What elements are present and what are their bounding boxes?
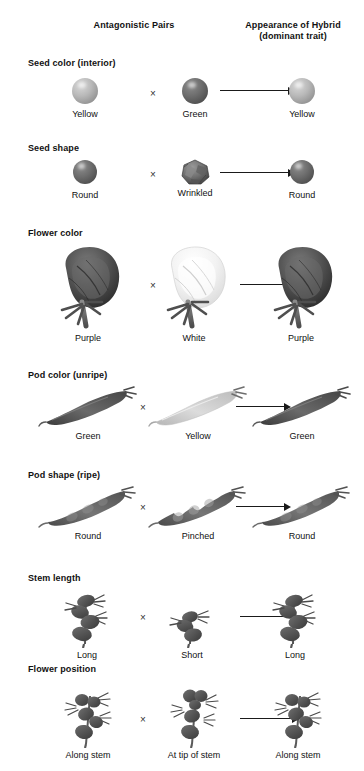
caption-pod-shape-parent1: Round [38, 531, 138, 542]
plant-long-stem-hybrid-icon [258, 592, 332, 648]
trait-cell-seed-color-hybrid: Yellow [262, 78, 342, 120]
pod-round-icon [38, 486, 138, 528]
flower-purple-icon [42, 240, 134, 332]
seed-round-hybrid-icon [262, 160, 342, 184]
caption-stem-length-parent2: Short [155, 650, 229, 661]
trait-cell-seed-shape-parent1: Round [45, 160, 125, 201]
column-header-antagonistic-pairs: Antagonistic Pairs [54, 20, 214, 31]
caption-flower-position-parent2: At tip of stem [152, 750, 236, 761]
trait-cell-seed-color-parent2: Green [155, 78, 235, 120]
caption-flower-color-parent2: White [148, 333, 240, 344]
trait-cell-pod-shape-hybrid: Round [252, 486, 352, 542]
flower-purple-hybrid-icon [255, 240, 347, 332]
seed-round-icon [45, 160, 125, 184]
caption-flower-color-hybrid: Purple [255, 333, 347, 344]
trait-cell-pod-color-parent2: Yellow [148, 386, 248, 442]
column-header-hybrid-line2: (dominant trait) [228, 31, 358, 42]
trait-heading-flower-color: Flower color [28, 228, 83, 238]
trait-heading-stem-length: Stem length [28, 573, 81, 583]
trait-cell-flower-color-hybrid: Purple [255, 240, 347, 344]
pod-round-hybrid-icon [252, 486, 352, 528]
trait-heading-pod-shape: Pod shape (ripe) [28, 470, 100, 480]
cross-symbol-pod-color: × [140, 402, 146, 413]
caption-flower-position-parent1: Along stem [46, 750, 130, 761]
cross-symbol-flower-position: × [140, 714, 146, 725]
caption-seed-color-hybrid: Yellow [262, 109, 342, 120]
trait-cell-pod-color-hybrid: Green [252, 386, 352, 442]
caption-pod-color-parent2: Yellow [148, 431, 248, 442]
caption-pod-shape-parent2: Pinched [148, 531, 248, 542]
trait-cell-flower-position-parent1: Along stem [46, 690, 130, 761]
caption-seed-shape-hybrid: Round [262, 190, 342, 201]
seed-sphere-yellow-icon [45, 78, 125, 104]
trait-heading-flower-position: Flower position [28, 664, 96, 674]
figure-canvas: Antagonistic Pairs Appearance of Hybrid … [0, 0, 364, 771]
trait-cell-flower-position-hybrid: Along stem [256, 690, 340, 761]
pod-pinched-icon [148, 486, 248, 528]
trait-cell-seed-shape-parent2: Wrinkled [155, 158, 235, 199]
trait-heading-seed-shape: Seed shape [28, 143, 79, 153]
flower-white-icon [148, 240, 240, 332]
plant-flowers-along-stem-icon [46, 690, 130, 748]
plant-flowers-at-tip-icon [152, 688, 236, 748]
trait-cell-pod-shape-parent1: Round [38, 486, 138, 542]
trait-cell-seed-color-parent1: Yellow [45, 78, 125, 120]
caption-seed-shape-parent2: Wrinkled [155, 188, 235, 199]
trait-cell-seed-shape-hybrid: Round [262, 160, 342, 201]
pod-yellow-icon [148, 386, 248, 428]
caption-seed-shape-parent1: Round [45, 190, 125, 201]
trait-cell-stem-length-parent1: Long [50, 592, 124, 661]
caption-stem-length-hybrid: Long [258, 650, 332, 661]
trait-cell-flower-position-parent2: At tip of stem [152, 688, 236, 761]
caption-pod-shape-hybrid: Round [252, 531, 352, 542]
trait-heading-pod-color: Pod color (unripe) [28, 370, 107, 380]
trait-cell-flower-color-parent2: White [148, 240, 240, 344]
plant-flowers-along-stem-hybrid-icon [256, 690, 340, 748]
column-header-hybrid: Appearance of Hybrid (dominant trait) [228, 20, 358, 42]
caption-flower-position-hybrid: Along stem [256, 750, 340, 761]
trait-heading-seed-color: Seed color (interior) [28, 58, 116, 68]
cross-symbol-pod-shape: × [140, 502, 146, 513]
caption-seed-color-parent2: Green [155, 109, 235, 120]
caption-seed-color-parent1: Yellow [45, 109, 125, 120]
trait-cell-pod-shape-parent2: Pinched [148, 486, 248, 542]
cross-symbol-stem-length: × [140, 612, 146, 623]
plant-long-stem-icon [50, 592, 124, 648]
trait-cell-stem-length-parent2: Short [155, 606, 229, 661]
seed-sphere-hybrid-icon [262, 78, 342, 104]
caption-flower-color-parent1: Purple [42, 333, 134, 344]
column-header-hybrid-line1: Appearance of Hybrid [228, 20, 358, 31]
plant-short-stem-icon [155, 606, 229, 648]
caption-pod-color-parent1: Green [38, 431, 138, 442]
pod-green-hybrid-icon [252, 386, 352, 428]
trait-cell-stem-length-hybrid: Long [258, 592, 332, 661]
trait-cell-flower-color-parent1: Purple [42, 240, 134, 344]
trait-cell-pod-color-parent1: Green [38, 386, 138, 442]
pod-green-icon [38, 386, 138, 428]
caption-pod-color-hybrid: Green [252, 431, 352, 442]
caption-stem-length-parent1: Long [50, 650, 124, 661]
